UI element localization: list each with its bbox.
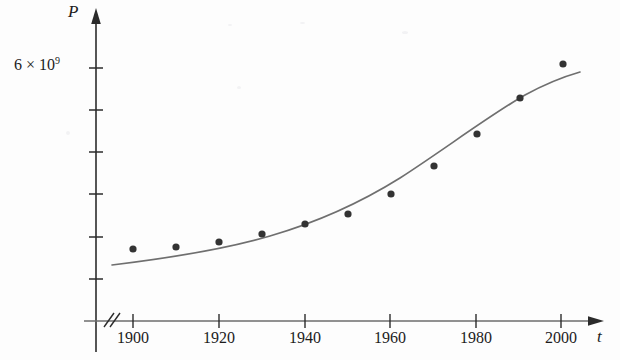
data-points (129, 60, 566, 252)
y-tick-mantissa: 6 × 10 (14, 56, 55, 73)
y-axis-tick-label: 6 × 109 (14, 55, 60, 74)
fitted-curve (112, 72, 580, 265)
y-axis (91, 8, 101, 352)
data-point (473, 130, 480, 137)
data-point (516, 94, 523, 101)
axis-break-icon (104, 313, 120, 327)
data-point (344, 210, 351, 217)
data-point (430, 162, 437, 169)
data-point (559, 60, 566, 67)
x-axis (84, 316, 604, 326)
y-axis-label: P (68, 2, 78, 22)
data-point (258, 230, 265, 237)
y-tick-exponent: 9 (55, 55, 60, 66)
x-axis-tick-label-2000: 2000 (545, 329, 577, 347)
population-graph-figure: P t 6 × 109 1900 1920 1940 1960 1980 200… (0, 0, 620, 360)
data-point (215, 238, 222, 245)
x-axis-tick-label-1920: 1920 (203, 329, 235, 347)
x-axis-tick-label-1940: 1940 (289, 329, 321, 347)
data-point (387, 190, 394, 197)
data-point (129, 245, 136, 252)
x-axis-label: t (597, 327, 602, 347)
x-axis-tick-label-1900: 1900 (117, 329, 149, 347)
x-axis-tick-label-1980: 1980 (460, 329, 492, 347)
data-point (301, 220, 308, 227)
x-axis-tick-label-1960: 1960 (374, 329, 406, 347)
chart-canvas (0, 0, 620, 360)
data-point (172, 243, 179, 250)
